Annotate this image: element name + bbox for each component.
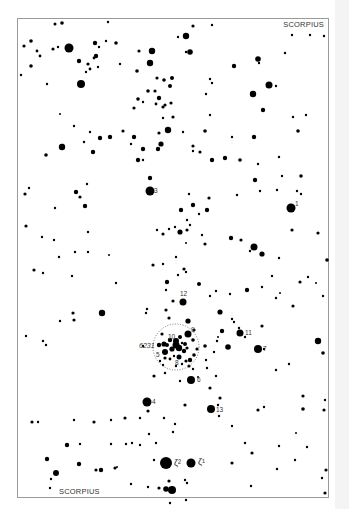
star	[147, 60, 153, 66]
star	[191, 338, 195, 342]
star	[183, 342, 187, 346]
star	[275, 297, 277, 299]
star-label: ζ²	[174, 458, 181, 468]
star	[137, 49, 140, 52]
star-label: 12	[180, 290, 188, 297]
star	[203, 344, 207, 348]
star	[86, 183, 88, 185]
star	[288, 363, 290, 365]
star	[301, 407, 305, 411]
star	[182, 267, 185, 270]
star	[278, 156, 280, 158]
star	[192, 368, 194, 370]
star	[162, 78, 166, 82]
star	[54, 23, 57, 26]
star	[29, 39, 33, 43]
star	[315, 282, 317, 284]
labeled-star	[187, 459, 196, 468]
star	[291, 34, 293, 36]
star-label: 9	[191, 326, 195, 333]
star	[284, 52, 286, 54]
star	[77, 59, 81, 63]
star	[136, 158, 140, 162]
star	[119, 63, 121, 65]
star	[45, 344, 47, 346]
star	[324, 399, 326, 401]
star	[42, 340, 44, 342]
star	[249, 250, 251, 252]
star	[192, 150, 194, 152]
star	[276, 468, 278, 470]
star	[116, 466, 118, 468]
star	[54, 207, 56, 209]
star	[83, 141, 85, 143]
star	[188, 193, 190, 195]
star	[322, 295, 324, 297]
star	[251, 244, 258, 251]
star	[145, 312, 147, 314]
star	[155, 442, 157, 444]
star	[165, 289, 167, 291]
star	[218, 396, 221, 399]
star-label: 7	[263, 345, 267, 352]
star	[160, 332, 163, 335]
star	[114, 41, 118, 45]
star	[290, 228, 293, 231]
star	[130, 483, 132, 485]
star	[197, 282, 201, 286]
star	[245, 288, 249, 292]
star	[185, 346, 188, 349]
constellation-label-bottom: SCORPIUS	[59, 487, 100, 496]
star	[244, 336, 246, 338]
star	[148, 433, 150, 435]
star	[142, 159, 144, 161]
star	[324, 468, 327, 471]
star	[185, 318, 190, 323]
star	[259, 190, 261, 192]
star	[271, 275, 273, 277]
star	[141, 147, 145, 151]
star	[110, 419, 112, 421]
star	[231, 425, 233, 427]
star	[164, 372, 166, 374]
star	[163, 486, 169, 492]
star	[185, 228, 188, 231]
star	[85, 71, 87, 73]
labeled-star	[160, 457, 172, 469]
star	[149, 48, 155, 54]
star	[195, 347, 198, 350]
star	[182, 131, 184, 133]
star	[181, 363, 183, 365]
star	[203, 242, 206, 245]
star	[230, 461, 233, 464]
star	[205, 359, 207, 361]
star	[209, 78, 211, 80]
star	[215, 375, 217, 377]
star	[253, 178, 257, 182]
star	[191, 24, 194, 27]
star-label: 10	[168, 333, 176, 340]
star	[266, 82, 273, 89]
star-label: 8	[175, 359, 179, 366]
star	[25, 335, 27, 337]
star	[45, 457, 49, 461]
star	[275, 85, 277, 87]
star	[182, 349, 186, 353]
constellation-label-top: SCORPIUS	[283, 20, 324, 29]
star	[261, 108, 265, 112]
star	[188, 358, 192, 362]
star	[86, 62, 89, 65]
star	[42, 272, 44, 274]
star	[105, 40, 107, 42]
star	[97, 66, 99, 68]
star	[205, 208, 209, 212]
star-chart: 1345678910111213ζ²ζ¹ SCORPIUS SCORPIUS 6…	[0, 0, 349, 509]
star	[255, 56, 261, 62]
star	[168, 486, 176, 494]
star	[36, 50, 39, 53]
star	[174, 423, 176, 425]
star	[89, 68, 92, 71]
star	[74, 251, 76, 253]
star	[108, 254, 110, 256]
star	[157, 96, 161, 100]
